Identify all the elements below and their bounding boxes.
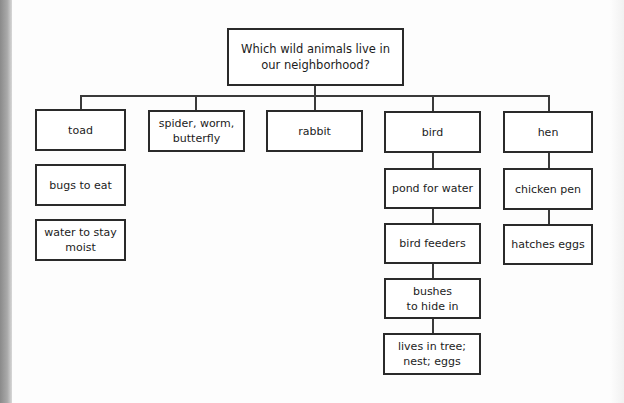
connector-bushes-lives [432, 318, 434, 333]
connector-to-hen [548, 95, 550, 111]
node-toad: toad [35, 109, 126, 151]
connector-to-spider [195, 95, 197, 110]
node-hatches-eggs: hatches eggs [503, 224, 593, 265]
page-edge-shadow [0, 0, 12, 403]
connector-to-bird [432, 95, 434, 111]
connector-bird-pond [432, 152, 434, 168]
node-bushes-to-hide-in: bushes to hide in [384, 278, 481, 319]
node-bugs-to-eat: bugs to eat [35, 164, 126, 206]
root-question-box: Which wild animals live in our neighborh… [227, 28, 404, 86]
node-pond-for-water: pond for water [384, 168, 481, 209]
connector-hen-chicken-pen [548, 152, 550, 168]
node-rabbit: rabbit [266, 110, 363, 152]
node-water-to-stay-moist: water to stay moist [35, 219, 126, 261]
connector-pond-feeders [432, 208, 434, 223]
node-bird-feeders: bird feeders [384, 223, 481, 264]
page-right-fade [610, 0, 624, 403]
node-bird: bird [384, 111, 481, 153]
node-spider-worm-butterfly: spider, worm, butterfly [148, 110, 245, 152]
connector-feeders-bushes [432, 263, 434, 278]
connector-to-rabbit [314, 95, 316, 110]
connector-to-toad [80, 95, 82, 110]
node-chicken-pen: chicken pen [503, 168, 593, 210]
node-hen: hen [503, 111, 593, 153]
connector-chicken-pen-hatches [548, 209, 550, 224]
node-lives-in-tree-nest-eggs: lives in tree; nest; eggs [383, 333, 481, 375]
